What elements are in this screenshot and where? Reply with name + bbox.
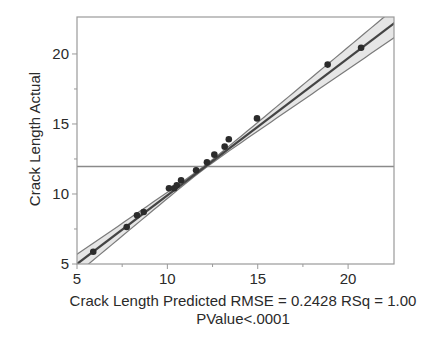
data-point <box>173 182 180 189</box>
y-tick-label: 5 <box>61 255 69 272</box>
data-point <box>204 159 211 166</box>
data-point <box>193 167 200 174</box>
actual-by-predicted-plot: 5101520 5101520 Crack Length Actual Crac… <box>0 0 435 343</box>
x-tick-label: 15 <box>249 270 266 287</box>
x-tick-label: 20 <box>340 270 357 287</box>
data-point <box>358 45 365 52</box>
x-tick-label: 5 <box>73 270 81 287</box>
data-point <box>178 177 185 184</box>
data-point <box>123 224 130 231</box>
data-point <box>134 212 141 219</box>
y-tick-label: 20 <box>52 45 69 62</box>
data-point <box>211 151 218 158</box>
x-axis-label-pvalue: PValue<.0001 <box>196 310 290 327</box>
data-point <box>90 248 97 255</box>
data-point <box>221 143 228 150</box>
x-axis-label: Crack Length Predicted RMSE = 0.2428 RSq… <box>70 292 417 309</box>
x-tick-label: 10 <box>159 270 176 287</box>
data-point <box>254 115 261 122</box>
y-axis: 5101520 <box>52 45 77 272</box>
x-axis: 5101520 <box>73 264 357 287</box>
y-axis-label: Crack Length Actual <box>26 72 43 206</box>
data-point <box>324 61 331 68</box>
data-point <box>140 209 147 216</box>
y-tick-label: 15 <box>52 115 69 132</box>
y-tick-label: 10 <box>52 185 69 202</box>
data-point <box>226 136 233 143</box>
